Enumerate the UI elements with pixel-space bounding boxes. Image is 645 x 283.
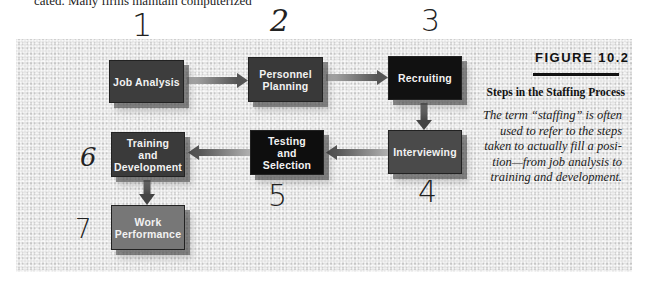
- node-label: and: [114, 149, 182, 161]
- handwritten-step-5: 5: [268, 181, 287, 211]
- node-recruiting: Recruiting: [388, 56, 462, 100]
- node-label: Selection: [263, 159, 311, 171]
- node-label: Recruiting: [398, 72, 452, 84]
- handwritten-step-3: 3: [421, 6, 440, 36]
- caption-line: tion—from job analysis to: [470, 155, 622, 171]
- node-label: Planning: [259, 80, 312, 92]
- node-label: Job Analysis: [113, 76, 180, 88]
- figure-rule-divider: [533, 73, 619, 76]
- arrow-training-to-work: [139, 180, 155, 205]
- handwritten-step-4: 4: [418, 177, 437, 207]
- node-personnel-planning: Personnel Planning: [248, 57, 323, 102]
- caption-line: training and development.: [470, 170, 622, 186]
- handwritten-step-7: 7: [75, 214, 92, 244]
- arrow-interviewing-to-testing: [326, 145, 388, 160]
- node-label: Interviewing: [393, 146, 457, 158]
- arrow-job-to-personnel: [187, 73, 248, 88]
- node-label: Performance: [115, 228, 181, 240]
- handwritten-step-1: 1: [132, 10, 152, 40]
- figure-label: FIGURE 10.2: [535, 50, 635, 65]
- figure-caption: The term “staffing” is often used to ref…: [470, 108, 622, 186]
- caption-line: taken to actually fill a posi-: [470, 139, 622, 155]
- arrow-personnel-to-recruiting: [326, 70, 388, 85]
- node-training-development: Training and Development: [111, 132, 185, 177]
- figure-title: Steps in the Staffing Process: [485, 86, 625, 98]
- arrow-recruiting-to-interviewing: [416, 103, 432, 130]
- caption-line: The term “staffing” is often: [470, 108, 622, 124]
- handwritten-step-6: 6: [80, 142, 97, 172]
- arrow-testing-to-training: [188, 145, 250, 160]
- node-job-analysis: Job Analysis: [109, 60, 184, 103]
- node-label: Personnel: [259, 68, 312, 80]
- node-testing-selection: Testing and Selection: [250, 130, 324, 175]
- caption-line: used to refer to the steps: [470, 124, 622, 140]
- node-label: Work: [115, 216, 181, 228]
- node-label: and: [263, 147, 311, 159]
- node-label: Testing: [263, 135, 311, 147]
- node-label: Training: [114, 137, 182, 149]
- node-label: Development: [114, 161, 182, 173]
- node-work-performance: Work Performance: [111, 205, 185, 250]
- node-interviewing: Interviewing: [388, 130, 462, 174]
- handwritten-step-2: 2: [270, 6, 289, 36]
